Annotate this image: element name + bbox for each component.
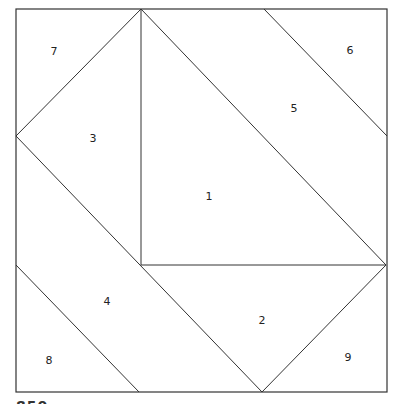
piece-labels: 123456789 xyxy=(46,44,354,367)
piece-label-6: 6 xyxy=(347,44,354,57)
block-border xyxy=(16,9,387,392)
seam-line xyxy=(16,265,139,392)
piece-label-9: 9 xyxy=(345,351,352,364)
footer-text-fragment: 850 xyxy=(16,398,48,404)
piece-label-4: 4 xyxy=(104,295,111,308)
piece-label-8: 8 xyxy=(46,354,53,367)
seam-line xyxy=(264,9,387,136)
seam-line xyxy=(262,265,386,392)
seam-line xyxy=(16,9,141,136)
seam-line xyxy=(16,136,262,392)
piece-label-2: 2 xyxy=(259,314,266,327)
piece-label-5: 5 xyxy=(291,102,298,115)
piece-label-3: 3 xyxy=(90,132,97,145)
piece-label-7: 7 xyxy=(51,45,58,58)
piece-label-1: 1 xyxy=(206,190,213,203)
quilt-diagram: 123456789 xyxy=(0,0,396,404)
seam-lines xyxy=(16,9,387,392)
